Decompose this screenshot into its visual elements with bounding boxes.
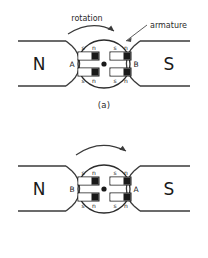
north-pole-letter-b: N: [33, 179, 46, 199]
figure-panel-b: N S s n s n s n s: [0, 125, 208, 258]
magnet-bottom-right-b: s n: [110, 193, 131, 209]
magnet-n-label: n: [124, 77, 128, 84]
figure-a-canvas: rotation armature N S: [0, 0, 208, 100]
magnet-s-label: s: [81, 44, 84, 51]
magnet-n-label: n: [92, 77, 96, 84]
magnet-s-label: s: [81, 77, 84, 84]
magnet-top-left-a: s n: [78, 44, 99, 60]
coil-label-left-a: A: [69, 60, 75, 69]
magnet-s-label: s: [113, 77, 116, 84]
magnet-n-label: n: [92, 44, 96, 51]
rotation-arrow-a: [68, 26, 114, 34]
south-pole-letter-b: S: [164, 179, 175, 199]
magnet-s-label: s: [113, 169, 116, 176]
magnet-top-left-b: s n: [78, 169, 99, 185]
coil-label-right-b: A: [133, 185, 139, 194]
magnet-s-label: s: [81, 169, 84, 176]
magnet-n-label: n: [124, 169, 128, 176]
magnet-n-label: n: [124, 202, 128, 209]
magnet-bottom-right-a: s n: [110, 68, 131, 84]
armature-label-a: armature: [150, 21, 187, 30]
armature-leader-a: [126, 25, 147, 41]
armature-leader-arrowhead-a: [126, 38, 132, 42]
rotation-arrow-b: [76, 145, 126, 155]
south-pole-letter-a: S: [164, 54, 175, 74]
magnet-n-label: n: [92, 202, 96, 209]
magnet-top-right-b: s n: [110, 169, 131, 185]
magnet-bottom-left-b: s n: [78, 193, 99, 209]
north-pole-letter-a: N: [33, 54, 46, 74]
magnet-s-label: s: [113, 202, 116, 209]
coil-label-right-a: B: [133, 60, 138, 69]
figure-b-canvas: N S s n s n s n s: [0, 125, 208, 231]
shaft-dot-a: [101, 61, 106, 66]
magnet-n-label: n: [92, 169, 96, 176]
shaft-dot-b: [101, 186, 106, 191]
magnet-n-label: n: [124, 44, 128, 51]
magnet-top-right-a: s n: [110, 44, 131, 60]
rotation-label-a: rotation: [71, 14, 102, 23]
caption-a: (a): [0, 100, 208, 110]
figure-panel-a: rotation armature N S: [0, 0, 208, 125]
magnet-s-label: s: [81, 202, 84, 209]
magnet-bottom-left-a: s n: [78, 68, 99, 84]
magnet-s-label: s: [113, 44, 116, 51]
coil-label-left-b: B: [69, 185, 74, 194]
